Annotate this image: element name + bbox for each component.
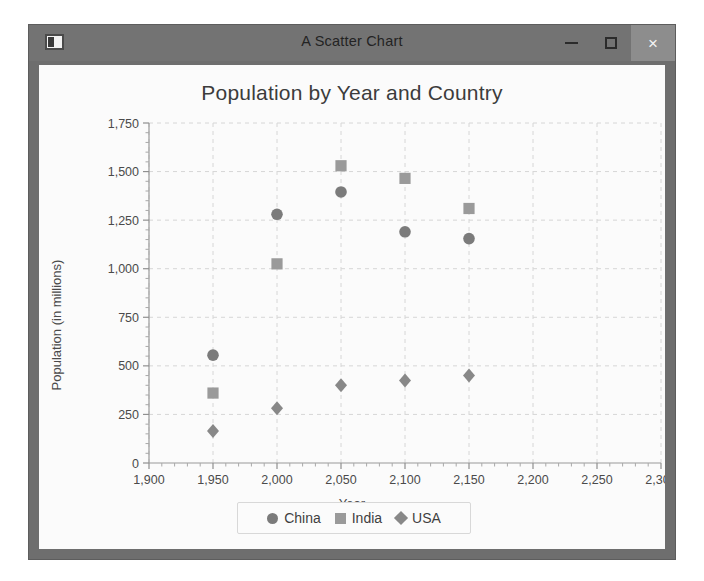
legend: China India USA xyxy=(237,502,471,534)
legend-item-usa[interactable]: USA xyxy=(396,510,441,526)
client-area: Population by Year and Country 025050075… xyxy=(39,65,665,549)
data-point-usa[interactable] xyxy=(271,401,283,415)
x-tick-label: 2,200 xyxy=(517,473,548,487)
legend-label-china: China xyxy=(284,510,321,526)
y-tick-label: 0 xyxy=(132,457,139,471)
data-point-india[interactable] xyxy=(271,258,282,269)
y-tick-label: 1,000 xyxy=(108,262,139,276)
y-tick-label: 1,750 xyxy=(108,117,139,131)
title-bar[interactable]: A Scatter Chart × xyxy=(29,25,675,61)
data-point-china[interactable] xyxy=(463,233,475,245)
data-point-china[interactable] xyxy=(399,226,411,238)
application-window: A Scatter Chart × Population by Year and… xyxy=(28,24,676,560)
x-tick-label: 2,300 xyxy=(645,473,665,487)
x-tick-label: 2,000 xyxy=(261,473,292,487)
data-point-usa[interactable] xyxy=(207,424,219,438)
y-tick-label: 1,500 xyxy=(108,165,139,179)
scatter-plot: 02505007501,0001,2501,5001,7501,9001,950… xyxy=(39,65,665,549)
data-point-india[interactable] xyxy=(399,173,410,184)
y-tick-label: 250 xyxy=(118,408,139,422)
data-point-usa[interactable] xyxy=(463,369,475,383)
data-point-china[interactable] xyxy=(207,349,219,361)
minimize-icon xyxy=(565,42,578,44)
x-tick-label: 2,150 xyxy=(453,473,484,487)
usa-marker-icon xyxy=(394,511,408,525)
maximize-icon xyxy=(605,37,617,49)
window-controls: × xyxy=(551,25,675,61)
screen: A Scatter Chart × Population by Year and… xyxy=(0,0,704,581)
data-point-usa[interactable] xyxy=(335,378,347,392)
tick-labels: 02505007501,0001,2501,5001,7501,9001,950… xyxy=(108,117,665,488)
x-tick-label: 2,100 xyxy=(389,473,420,487)
close-icon: × xyxy=(648,35,658,52)
data-point-china[interactable] xyxy=(335,186,347,198)
x-tick-label: 2,050 xyxy=(325,473,356,487)
minimize-button[interactable] xyxy=(551,25,591,61)
y-axis-label: Population (in millions) xyxy=(49,260,64,391)
x-tick-label: 2,250 xyxy=(581,473,612,487)
legend-label-usa: USA xyxy=(412,510,441,526)
legend-label-india: India xyxy=(352,510,382,526)
data-point-india[interactable] xyxy=(463,203,474,214)
data-point-india[interactable] xyxy=(335,160,346,171)
x-tick-label: 1,900 xyxy=(133,473,164,487)
legend-item-india[interactable]: India xyxy=(335,510,382,526)
close-button[interactable]: × xyxy=(631,25,675,61)
data-point-india[interactable] xyxy=(207,387,218,398)
china-marker-icon xyxy=(267,513,278,524)
x-tick-label: 1,950 xyxy=(197,473,228,487)
legend-item-china[interactable]: China xyxy=(267,510,321,526)
india-marker-icon xyxy=(335,513,346,524)
y-tick-label: 500 xyxy=(118,359,139,373)
data-point-china[interactable] xyxy=(271,209,283,221)
maximize-button[interactable] xyxy=(591,25,631,61)
data-point-usa[interactable] xyxy=(399,373,411,387)
y-tick-label: 1,250 xyxy=(108,214,139,228)
y-tick-label: 750 xyxy=(118,311,139,325)
